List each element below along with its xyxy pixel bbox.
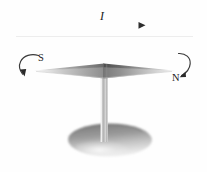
compass-needle xyxy=(33,63,176,78)
rotation-arrow-south-side xyxy=(20,55,39,77)
current-label: I xyxy=(100,10,104,22)
figure-canvas xyxy=(0,0,207,172)
current-arrow-head xyxy=(139,22,146,29)
physics-figure-compass-and-wire: I S N xyxy=(0,0,207,172)
pivot-stem xyxy=(101,74,108,142)
rotation-arc-right xyxy=(179,53,191,75)
north-pole-label: N xyxy=(172,73,180,84)
straight-current-carrying-wire xyxy=(14,35,195,36)
current-direction-arrow xyxy=(66,22,146,29)
circular-base-stand xyxy=(68,124,152,157)
south-pole-label: S xyxy=(38,53,44,64)
rotation-arrowhead-right xyxy=(180,71,186,77)
rotation-arrow-north-side xyxy=(179,53,191,77)
